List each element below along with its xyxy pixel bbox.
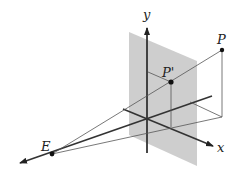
point-p [220,48,224,52]
y-axis-label: y [142,7,151,22]
point-p-prime-label: P' [161,65,174,80]
point-p-label: P [216,32,226,47]
projection-diagram: y x P P' E [0,0,240,176]
eye-label: E [40,139,51,154]
x-axis-label: x [217,140,225,155]
point-p-prime [168,79,173,84]
image-plane [129,32,197,166]
